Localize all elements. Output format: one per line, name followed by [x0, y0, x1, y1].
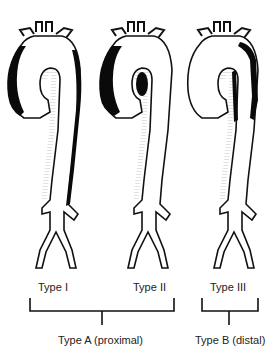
- bracket-type-b: [202, 298, 258, 325]
- label-type-a: Type A (proximal): [58, 334, 143, 346]
- label-type-3: Type III: [210, 281, 246, 293]
- label-type-b: Type B (distal): [195, 334, 265, 346]
- aorta-type-3: [188, 22, 258, 268]
- aortic-dissection-diagram: [0, 0, 278, 358]
- aorta-type-2: [99, 22, 172, 268]
- aorta-type-1: [7, 22, 81, 268]
- label-type-2: Type II: [133, 281, 166, 293]
- bracket-type-a: [30, 298, 174, 325]
- label-type-1: Type I: [38, 281, 68, 293]
